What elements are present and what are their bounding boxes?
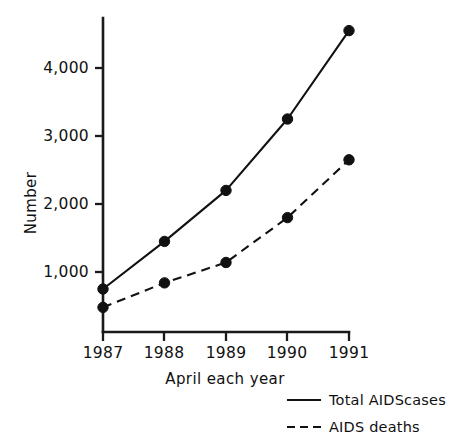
aids-line-chart: 4,000 3,000 2,000 1,000 1987 1988 1989 1… bbox=[0, 0, 459, 448]
y-tick-label-1000: 1,000 bbox=[43, 263, 89, 281]
x-tick-label-1990: 1990 bbox=[267, 344, 308, 362]
data-point bbox=[344, 25, 354, 35]
data-point bbox=[98, 302, 108, 312]
y-tick-label-3000: 3,000 bbox=[43, 127, 89, 145]
data-point bbox=[159, 278, 169, 288]
data-point bbox=[282, 114, 292, 124]
x-axis-title: April each year bbox=[165, 370, 285, 388]
y-tick-label-4000: 4,000 bbox=[43, 59, 89, 77]
legend-label-total-aids-cases: Total AIDScases bbox=[328, 392, 446, 408]
data-point bbox=[221, 185, 231, 195]
data-point bbox=[221, 257, 231, 267]
data-point bbox=[344, 155, 354, 165]
x-tick-label-1991: 1991 bbox=[329, 344, 370, 362]
y-axis-title: Number bbox=[22, 171, 40, 234]
data-point bbox=[282, 212, 292, 222]
x-tick-label-1988: 1988 bbox=[144, 344, 185, 362]
x-tick-label-1989: 1989 bbox=[206, 344, 247, 362]
data-point bbox=[98, 284, 108, 294]
y-tick-label-2000: 2,000 bbox=[43, 195, 89, 213]
x-tick-label-1987: 1987 bbox=[83, 344, 124, 362]
chart-figure: 4,000 3,000 2,000 1,000 1987 1988 1989 1… bbox=[0, 0, 459, 448]
data-point bbox=[159, 236, 169, 246]
legend-label-aids-deaths: AIDS deaths bbox=[329, 419, 420, 435]
